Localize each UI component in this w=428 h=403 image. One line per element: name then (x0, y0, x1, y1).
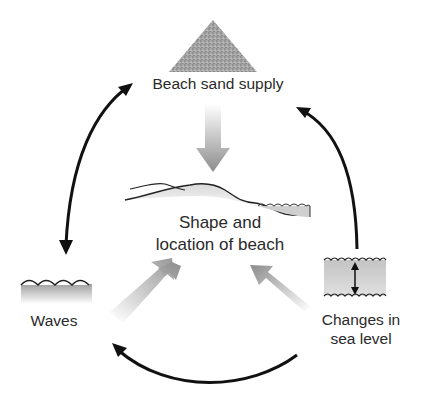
arrow-supply-waves-double (59, 83, 133, 255)
shape-label-line2: location of beach (140, 234, 300, 256)
sea-level-change-icon (324, 258, 386, 296)
sand-pile-icon (169, 20, 257, 72)
beach-sand-supply-label: Beach sand supply (128, 74, 308, 93)
arrow-sea-level-to-supply (296, 107, 357, 249)
arrow-sea-level-to-waves (112, 343, 297, 383)
sea-level-label-line2: sea level (306, 329, 416, 348)
waves-label: Waves (14, 311, 94, 330)
gray-arrow-waves-to-beach (110, 258, 181, 323)
gray-arrow-sea-level-to-beach (250, 265, 310, 312)
waves-icon (21, 281, 92, 305)
shape-label-line1: Shape and (140, 212, 300, 234)
beach-cycle-diagram: Beach sand supply Shape and location of … (0, 0, 428, 403)
shape-and-location-label: Shape and location of beach (140, 212, 300, 256)
sea-level-label-line1: Changes in (306, 310, 416, 329)
gray-arrow-supply-to-beach (196, 104, 230, 172)
sea-level-label: Changes in sea level (306, 310, 416, 348)
